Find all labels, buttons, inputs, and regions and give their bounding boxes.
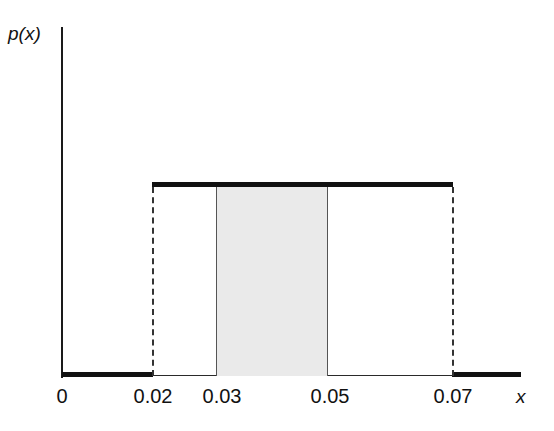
x-tick-label-0p07: 0.07 xyxy=(434,385,473,408)
x-tick-label-0p03: 0.03 xyxy=(203,385,242,408)
x-tick-label-0p02: 0.02 xyxy=(134,385,173,408)
y-axis-line xyxy=(61,27,63,378)
y-axis-label: p(x) xyxy=(8,23,41,45)
x-axis-label: x xyxy=(516,386,526,408)
density-segment-right-zero xyxy=(452,372,521,377)
dashed-riser-upper-bound xyxy=(452,187,454,376)
x-tick-label-0: 0 xyxy=(56,385,67,408)
density-plateau xyxy=(152,182,453,187)
density-segment-left-zero xyxy=(62,372,153,377)
uniform-density-chart: p(x) x 0 0.02 0.03 0.05 0.07 xyxy=(0,0,554,431)
x-tick-label-0p05: 0.05 xyxy=(311,385,350,408)
shaded-probability-region xyxy=(216,187,328,376)
dashed-riser-lower-bound xyxy=(152,187,154,376)
